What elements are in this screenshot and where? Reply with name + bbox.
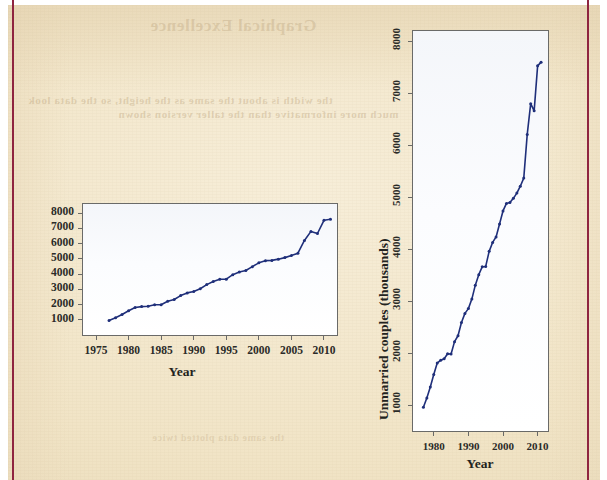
y-tick-mark bbox=[408, 145, 413, 146]
y-tick-label: 7000 bbox=[390, 78, 402, 104]
y-tick-label: 5000 bbox=[390, 182, 402, 208]
y-tick-mark bbox=[408, 93, 413, 94]
tall-aspect-chart: 10002000300040005000600070008000 1980199… bbox=[360, 0, 607, 480]
y-tick-label: 6000 bbox=[34, 236, 74, 248]
x-tick-mark bbox=[537, 431, 538, 436]
x-tick-mark bbox=[323, 335, 324, 340]
y-tick-mark bbox=[408, 41, 413, 42]
y-tick-label: 7000 bbox=[34, 220, 74, 232]
y-tick-label: 6000 bbox=[390, 130, 402, 156]
y-tick-mark bbox=[78, 258, 83, 259]
y-tick-mark bbox=[78, 319, 83, 320]
y-tick-mark bbox=[408, 353, 413, 354]
y-tick-mark bbox=[78, 289, 83, 290]
y-tick-mark bbox=[78, 213, 83, 214]
y-tick-label: 5000 bbox=[34, 251, 74, 263]
x-tick-mark bbox=[433, 431, 434, 436]
x-tick-mark bbox=[161, 335, 162, 340]
x-tick-mark bbox=[226, 335, 227, 340]
y-tick-mark bbox=[78, 243, 83, 244]
y-tick-mark bbox=[78, 304, 83, 305]
tall-chart-y-axis-title: Unmarried couples (thousands) bbox=[376, 238, 392, 420]
tall-chart-data-line bbox=[413, 31, 550, 433]
x-tick-mark bbox=[468, 431, 469, 436]
x-tick-mark bbox=[503, 431, 504, 436]
y-tick-mark bbox=[78, 274, 83, 275]
y-tick-label: 3000 bbox=[34, 281, 74, 293]
x-tick-label: 2010 bbox=[302, 344, 346, 356]
y-tick-label: 8000 bbox=[390, 26, 402, 52]
wide-chart-plot-area bbox=[82, 203, 338, 336]
x-tick-mark bbox=[193, 335, 194, 340]
scanned-textbook-page: Graphical Excellence the width is about … bbox=[0, 0, 607, 480]
x-tick-mark bbox=[258, 335, 259, 340]
x-tick-label: 2010 bbox=[518, 440, 558, 452]
wide-aspect-chart: 10002000300040005000600070008000 1975198… bbox=[0, 0, 370, 480]
x-tick-mark bbox=[128, 335, 129, 340]
wide-chart-data-line bbox=[83, 204, 339, 337]
y-tick-label: 2000 bbox=[34, 297, 74, 309]
tall-chart-x-axis-title: Year bbox=[467, 456, 494, 472]
y-tick-label: 4000 bbox=[34, 266, 74, 278]
tall-chart-plot-area bbox=[412, 30, 549, 432]
y-tick-mark bbox=[78, 228, 83, 229]
wide-chart-x-axis-title: Year bbox=[169, 364, 196, 380]
x-tick-mark bbox=[96, 335, 97, 340]
y-tick-mark bbox=[408, 301, 413, 302]
y-tick-mark bbox=[408, 405, 413, 406]
y-tick-label: 1000 bbox=[34, 312, 74, 324]
y-tick-label: 8000 bbox=[34, 205, 74, 217]
y-tick-mark bbox=[408, 249, 413, 250]
x-tick-mark bbox=[291, 335, 292, 340]
y-tick-mark bbox=[408, 197, 413, 198]
